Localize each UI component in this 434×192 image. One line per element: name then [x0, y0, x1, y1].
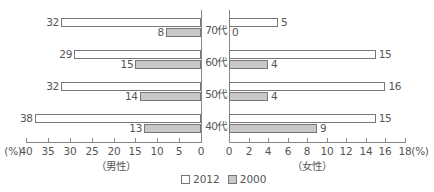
age-category-label: 40代: [203, 118, 229, 133]
legend-label-2000: 2000: [240, 173, 267, 185]
age-category-label: 50代: [203, 86, 229, 101]
female-x-tick: [249, 138, 250, 142]
female-value-label-2012: 5: [281, 17, 287, 27]
male-value-label-2012: 32: [46, 81, 59, 91]
male-x-axis: [26, 142, 202, 143]
female-axis-label: （女性）: [292, 158, 332, 173]
female-bar-2000: [229, 92, 268, 101]
age-category-label: 70代: [203, 22, 229, 37]
male-value-label-2000: 13: [129, 123, 142, 133]
female-bar-2012: [229, 50, 376, 59]
legend-swatch-2012: [181, 175, 190, 184]
male-axis-label: （男性）: [96, 158, 136, 173]
male-x-tick-label: 0: [198, 145, 204, 157]
female-x-axis: [229, 142, 406, 143]
legend-item-2000: 2000: [228, 173, 267, 185]
male-bar-2012: [61, 18, 201, 27]
female-x-tick-label: 4: [265, 145, 271, 157]
female-x-tick: [288, 138, 289, 142]
male-bar-2000: [166, 28, 201, 37]
male-x-tick: [157, 138, 158, 142]
female-value-label-2012: 15: [379, 49, 392, 59]
male-value-label-2012: 29: [59, 49, 72, 59]
male-x-tick: [92, 138, 93, 142]
female-x-tick-label: 6: [285, 145, 291, 157]
male-value-label-2012: 38: [20, 113, 33, 123]
female-x-tick-label: 10: [321, 145, 334, 157]
male-bar-2000: [144, 124, 201, 133]
age-category-label: 60代: [203, 54, 229, 69]
male-x-tick: [201, 138, 202, 142]
male-x-tick-label: 5: [176, 145, 182, 157]
female-x-tick-label: 0: [226, 145, 232, 157]
legend-swatch-2000: [228, 175, 237, 184]
female-x-tick: [268, 138, 269, 142]
male-bar-2000: [135, 60, 201, 69]
female-x-tick: [385, 138, 386, 142]
legend-item-2012: 2012: [181, 173, 220, 185]
male-value-label-2000: 15: [121, 59, 134, 69]
female-value-label-2012: 16: [388, 81, 401, 91]
male-x-tick: [26, 138, 27, 142]
female-bar-2012: [229, 82, 385, 91]
female-bar-2000: [229, 60, 268, 69]
female-x-tick-label: 12: [340, 145, 353, 157]
legend-label-2012: 2012: [193, 173, 220, 185]
female-x-tick-label: 2: [246, 145, 252, 157]
male-x-tick: [135, 138, 136, 142]
male-x-tick-label: 35: [42, 145, 55, 157]
male-x-tick-label: 15: [129, 145, 142, 157]
male-value-label-2000: 14: [125, 91, 138, 101]
male-bar-2000: [140, 92, 201, 101]
female-x-tick: [405, 138, 406, 142]
female-value-label-2000: 9: [320, 123, 326, 133]
male-value-label-2000: 8: [158, 27, 164, 37]
female-value-label-2000: 4: [271, 91, 277, 101]
female-value-label-2000: 0: [232, 27, 238, 37]
legend: 2012 2000: [181, 173, 274, 185]
female-bar-2000: [229, 124, 317, 133]
male-x-tick-label: 10: [151, 145, 164, 157]
male-unit-label: (%): [4, 145, 21, 157]
female-x-tick-label: 18: [399, 145, 412, 157]
female-x-tick: [327, 138, 328, 142]
female-value-label-2000: 4: [271, 59, 277, 69]
female-unit-label: (%): [411, 145, 428, 157]
male-bar-2012: [35, 114, 201, 123]
female-x-tick: [346, 138, 347, 142]
female-x-tick: [366, 138, 367, 142]
female-x-tick: [229, 138, 230, 142]
male-x-tick: [114, 138, 115, 142]
male-zero-axis: [201, 10, 202, 142]
female-x-tick-label: 14: [360, 145, 373, 157]
male-x-tick-label: 20: [108, 145, 121, 157]
male-x-tick: [70, 138, 71, 142]
male-x-tick: [179, 138, 180, 142]
male-x-tick: [48, 138, 49, 142]
female-bar-2012: [229, 114, 376, 123]
male-x-tick-label: 30: [64, 145, 77, 157]
female-x-tick: [307, 138, 308, 142]
female-x-tick-label: 8: [304, 145, 310, 157]
male-bar-2012: [74, 50, 201, 59]
female-x-tick-label: 16: [379, 145, 392, 157]
female-value-label-2012: 15: [379, 113, 392, 123]
male-x-tick-label: 25: [86, 145, 99, 157]
male-value-label-2012: 32: [46, 17, 59, 27]
